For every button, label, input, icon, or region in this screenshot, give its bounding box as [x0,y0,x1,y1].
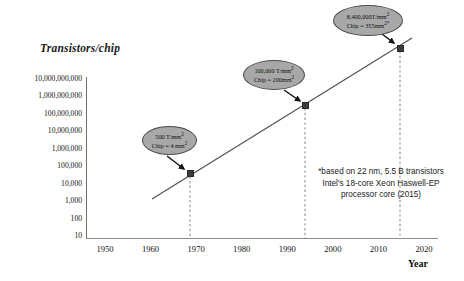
x-tick-label: 2000 [313,244,353,254]
x-tick-label: 1970 [176,244,216,254]
y-tick-text: 100,000 [0,162,82,170]
x-tick-label: 1980 [222,244,262,254]
y-axis-line [86,77,87,238]
data-point-1968 [187,170,194,177]
x-tick-label: 2020 [404,244,444,254]
x-tick-label: 2010 [358,244,398,254]
data-point-2015 [397,45,404,52]
x-tick-label: 1950 [85,244,125,254]
callout-density-2015: 8,400,000T/mm2 [347,12,389,21]
x-tick-label: 1990 [267,244,307,254]
callout-bubble-1993: 100,000 T/mm2 Chip = 200mm2 [243,60,305,90]
y-tick-text: 1,000,000 [0,145,82,153]
x-axis-caption: Year [408,258,428,269]
y-tick-text: 1,000 [0,197,82,205]
callout-chip-2015: Chip = 355mm2* [347,21,390,30]
callout-density-1968: 500 T/mm2 [155,132,183,141]
y-tick-text: 10,000,000,000 [0,75,82,83]
y-tick-text: 10,000,000 [0,128,82,136]
callout-bubble-1968: 500 T/mm2 Chip = 4 mm2 [142,126,197,155]
callout-chip-1993: Chip = 200mm2 [254,75,294,84]
y-tick-text: 1,000,000,000 [0,93,82,101]
y-axis-title: Transistors/chip [40,42,120,54]
callout-density-1993: 100,000 T/mm2 [254,66,293,75]
arrow-1968 [167,156,184,169]
callout-bubble-2015: 8,400,000T/mm2 Chip = 355mm2* [333,5,403,36]
arrow-1993 [284,90,300,101]
callout-chip-1968: Chip = 4 mm2 [152,141,187,150]
x-tick-label: 1960 [131,244,171,254]
y-tick-text: 10,000 [0,180,82,188]
transistors-per-chip-chart: Transistors/chip 10,000,000,0001,000,000… [0,0,464,281]
y-tick-text: 100,000,000 [0,110,82,118]
y-tick-text: 10 [0,232,82,240]
footnote-text: *based on 22 nm, 5.5 B transistors Intel… [318,166,444,201]
x-axis-line [86,238,438,239]
y-tick-text: 100 [0,215,82,223]
data-point-1993 [302,102,309,109]
